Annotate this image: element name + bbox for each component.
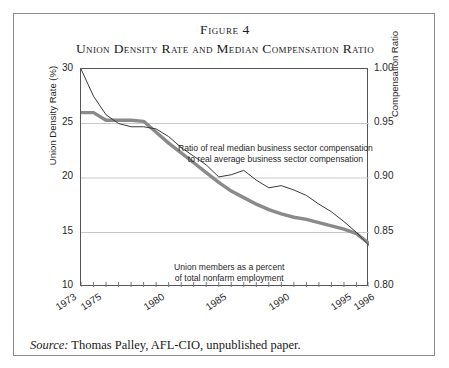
title-block: Figure 4 Union Density Rate and Median C… — [14, 22, 436, 58]
ratio-annotation-line-2: to real average business sector compensa… — [178, 154, 373, 165]
y-tick-left-20: 20 — [33, 170, 73, 181]
y-tick-left-25: 25 — [33, 116, 73, 127]
y-tick-right-100: 1.00 — [374, 62, 414, 73]
figure-number: Figure 4 — [14, 22, 436, 38]
y-tick-left-30: 30 — [33, 62, 73, 73]
y-tick-right-095: 0.95 — [374, 116, 414, 127]
y-tick-left-15: 15 — [33, 225, 73, 236]
y-tick-right-085: 0.85 — [374, 225, 414, 236]
x-tick-1975: 1975 — [79, 291, 104, 312]
union-annotation-line-2: of total nonfarm employment — [174, 273, 284, 284]
x-tick-1995: 1995 — [329, 291, 354, 312]
figure-title: Union Density Rate and Median Compensati… — [14, 40, 436, 58]
ratio-annotation-line-1: Ratio of real median business sector com… — [178, 143, 373, 154]
source-label: Source: — [30, 338, 68, 352]
x-tick-1985: 1985 — [204, 291, 229, 312]
x-tick-1980: 1980 — [142, 291, 167, 312]
y-tick-right-080: 0.80 — [374, 279, 414, 290]
x-tick-1990: 1990 — [267, 291, 292, 312]
union-annotation: Union members as a percent of total nonf… — [174, 262, 284, 284]
y-tick-left-10: 10 — [33, 279, 73, 290]
union-annotation-line-1: Union members as a percent — [174, 262, 284, 273]
source-note: Source: Thomas Palley, AFL-CIO, unpublis… — [30, 338, 449, 353]
ratio-annotation: Ratio of real median business sector com… — [178, 143, 373, 165]
gridlines — [81, 124, 369, 233]
x-tick-1973: 1973 — [54, 291, 79, 312]
plot-area: Ratio of real median business sector com… — [80, 68, 368, 286]
figure-frame: Figure 4 Union Density Rate and Median C… — [13, 13, 435, 356]
chart-canvas — [81, 69, 369, 287]
x-tick-1996: 1996 — [352, 291, 377, 312]
y-tick-right-090: 0.90 — [374, 170, 414, 181]
source-text: Thomas Palley, AFL-CIO, unpublished pape… — [68, 338, 300, 352]
